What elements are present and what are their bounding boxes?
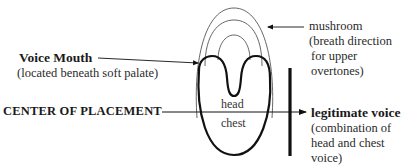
voice-placement-diagram: Voice Mouth (located beneath soft palate… bbox=[0, 0, 401, 166]
voice-mouth-pointer bbox=[98, 58, 198, 63]
legitimate-voice-note-line-2: head and chest bbox=[311, 136, 385, 151]
mushroom-note-line-3: overtones) bbox=[311, 64, 364, 79]
mushroom-note-line-2: for upper bbox=[311, 49, 357, 64]
voice-mouth-label: Voice Mouth bbox=[19, 50, 92, 65]
center-of-placement-label: CENTER OF PLACEMENT bbox=[3, 104, 162, 119]
legitimate-voice-note-line-1: (combination of bbox=[311, 121, 391, 136]
chest-label: chest bbox=[221, 116, 246, 131]
mushroom-label: mushroom bbox=[309, 19, 362, 34]
legitimate-voice-label: legitimate voice bbox=[311, 105, 401, 120]
legitimate-voice-note-line-3: voice) bbox=[311, 151, 342, 166]
voice-mouth-note: (located beneath soft palate) bbox=[17, 66, 158, 81]
head-label: head bbox=[221, 97, 244, 112]
mushroom-note-line-1: (breath direction bbox=[309, 34, 392, 49]
mushroom-arch-middle bbox=[205, 20, 262, 66]
mushroom-arch-inner bbox=[218, 35, 250, 60]
